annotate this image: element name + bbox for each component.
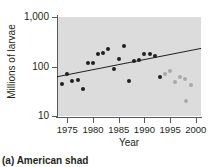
data-point — [189, 83, 193, 87]
data-point — [86, 61, 90, 65]
data-point — [158, 75, 162, 79]
x-axis-tick-label: 2000 — [185, 124, 206, 135]
data-point — [163, 72, 167, 76]
y-axis-tick — [52, 67, 57, 68]
y-axis-tick-label: 100 — [3, 61, 49, 72]
y-axis-tick — [52, 17, 57, 18]
x-axis-tick-label: 1990 — [134, 124, 155, 135]
figure-caption: (a) American shad — [2, 155, 88, 166]
x-axis-tick — [67, 118, 68, 123]
data-point — [117, 57, 121, 61]
x-axis-tick-label: 1975 — [57, 124, 78, 135]
data-point — [173, 80, 177, 84]
data-point — [142, 52, 146, 56]
data-point — [148, 52, 152, 56]
x-axis-tick-label: 1995 — [160, 124, 181, 135]
data-point — [81, 87, 85, 91]
data-point — [76, 78, 80, 82]
data-point — [127, 79, 131, 83]
data-point — [70, 79, 74, 83]
x-axis-tick-label: 1985 — [108, 124, 129, 135]
x-axis-tick — [196, 118, 197, 123]
data-point — [168, 69, 172, 73]
x-axis-tick — [119, 118, 120, 123]
x-axis-tick-label: 1980 — [82, 124, 103, 135]
y-axis-tick-label: 1,000 — [3, 11, 49, 22]
data-point — [112, 67, 116, 71]
data-point — [96, 52, 100, 56]
data-point — [183, 77, 187, 81]
trendline — [57, 17, 201, 116]
y-axis-tick-label: 10 — [3, 110, 49, 121]
data-point — [91, 61, 95, 65]
y-axis-tick — [52, 116, 57, 117]
x-axis-tick — [170, 118, 171, 123]
data-point — [65, 72, 69, 76]
data-point — [122, 44, 126, 48]
x-axis-tick — [93, 118, 94, 123]
x-axis-tick — [144, 118, 145, 123]
x-axis-line — [56, 117, 202, 118]
data-point — [101, 51, 105, 55]
data-point — [184, 99, 188, 103]
data-point — [60, 82, 64, 86]
data-point — [153, 54, 157, 58]
figure-american-shad: Millions of larvae Year (a) American sha… — [0, 0, 208, 167]
data-point — [132, 59, 136, 63]
data-point — [106, 47, 110, 51]
data-point — [137, 58, 141, 62]
x-axis-title: Year — [57, 137, 201, 148]
